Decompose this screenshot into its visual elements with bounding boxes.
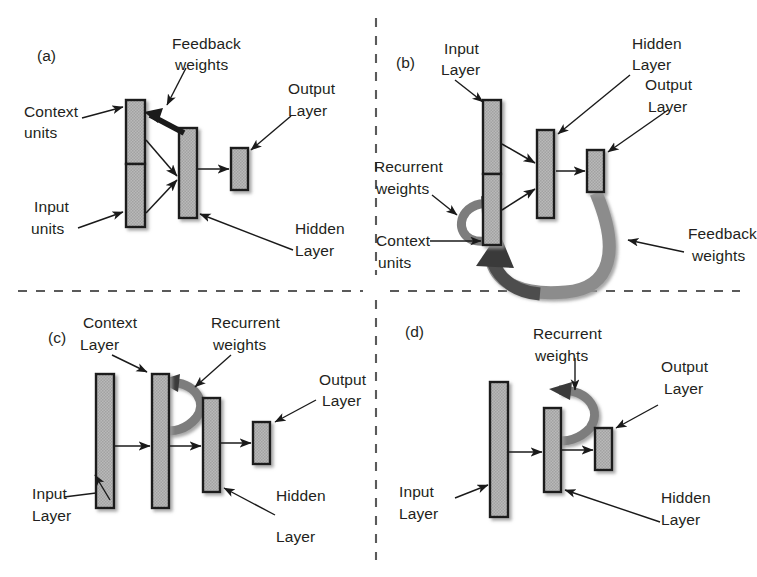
label-output-layer-a-line1: Output xyxy=(288,81,335,97)
label-hidden-layer-c-line1: Hidden xyxy=(276,488,326,504)
panel-label-a: (a) xyxy=(37,48,56,64)
label-recurrent-weights-d-line2: weights xyxy=(535,348,588,364)
leader-context-layer-c xyxy=(112,355,147,372)
label-feedback-weights-a-line1: Feedback xyxy=(172,36,241,52)
node-context-units-b xyxy=(483,174,501,245)
label-context-units-b-line1: Context xyxy=(376,233,430,249)
panel-label-b: (b) xyxy=(396,55,415,71)
panel-b-graphics xyxy=(430,75,684,294)
label-output-layer-b-line1: Output xyxy=(645,77,692,93)
label-recurrent-weights-d-line1: Recurrent xyxy=(533,326,602,342)
label-recurrent-weights-b-line2: weights xyxy=(376,181,429,197)
leader-input-units-a xyxy=(78,212,123,228)
node-hidden-layer-d xyxy=(544,408,561,492)
leader-output-layer-c xyxy=(275,400,316,422)
node-input-layer-d xyxy=(490,382,508,517)
label-output-layer-d-line1: Output xyxy=(661,359,708,375)
label-context-layer-c-line2: Layer xyxy=(80,337,119,353)
panel-label-d: (d) xyxy=(405,324,424,340)
label-input-units-a-line1: Input xyxy=(34,199,69,215)
leader-context-units-a xyxy=(82,107,123,118)
label-hidden-layer-b-line2: Layer xyxy=(632,57,671,73)
label-input-layer-d-line1: Input xyxy=(399,484,434,500)
leader-hidden-layer-b xyxy=(558,75,630,134)
label-output-layer-a-line2: Layer xyxy=(288,103,327,119)
leader-recurrent-weights-c xyxy=(195,355,231,387)
leader-feedback-weights-b xyxy=(628,240,684,252)
leader-output-layer-a xyxy=(251,116,291,150)
leader-hidden-layer-d xyxy=(565,490,660,522)
edge-context-to-hidden-b xyxy=(502,189,535,210)
leader-feedback-weights-a xyxy=(167,68,186,105)
label-input-units-a-line2: units xyxy=(31,221,64,237)
ribbon-recurrent-weights-c xyxy=(166,382,200,431)
node-context-layer-c xyxy=(152,374,169,508)
node-input-layer-b xyxy=(483,100,501,174)
label-input-layer-c-line1: Input xyxy=(32,486,67,502)
node-context-units-a xyxy=(126,100,145,164)
label-output-layer-c-line2: Layer xyxy=(322,393,361,409)
leader-input-layer-d xyxy=(455,485,488,498)
arrowhead-recurrent-weights-d xyxy=(549,382,572,400)
ribbon-recurrent-weights-d xyxy=(559,390,594,441)
node-output-layer-a xyxy=(231,148,248,190)
label-feedback-weights-a-line2: weights xyxy=(175,57,228,73)
node-output-layer-d xyxy=(595,428,612,470)
label-context-units-a-line2: units xyxy=(24,125,57,141)
label-hidden-layer-a-line1: Hidden xyxy=(295,221,345,237)
label-hidden-layer-b-line1: Hidden xyxy=(632,36,682,52)
edge-context-to-hidden-a xyxy=(146,140,177,176)
label-context-units-b-line2: units xyxy=(378,255,411,271)
label-recurrent-weights-c-line2: weights xyxy=(213,337,266,353)
label-feedback-weights-b-line2: weights xyxy=(692,248,745,264)
label-input-layer-b-line1: Input xyxy=(444,41,479,57)
leader-hidden-layer-a xyxy=(200,214,293,250)
panel-label-c: (c) xyxy=(48,330,66,346)
leader-recurrent-weights-b xyxy=(432,195,457,215)
label-recurrent-weights-b-line1: Recurrent xyxy=(374,159,443,175)
edge-input-to-hidden-a xyxy=(146,180,177,213)
label-hidden-layer-d-line1: Hidden xyxy=(661,490,711,506)
edge-input-to-hidden-b xyxy=(502,144,535,163)
label-recurrent-weights-c-line1: Recurrent xyxy=(211,315,280,331)
label-hidden-layer-d-line2: Layer xyxy=(661,512,700,528)
label-context-units-a-line1: Context xyxy=(24,104,78,120)
panel-d-graphics xyxy=(455,358,660,522)
label-input-layer-d-line2: Layer xyxy=(399,506,438,522)
label-hidden-layer-a-line2: Layer xyxy=(295,243,334,259)
node-hidden-layer-b xyxy=(537,130,554,218)
leader-output-layer-b xyxy=(608,110,668,152)
label-output-layer-d-line2: Layer xyxy=(664,381,703,397)
leader-output-layer-d xyxy=(616,405,658,428)
node-input-layer-c xyxy=(96,374,114,508)
node-input-units-a xyxy=(126,164,145,227)
panel-a-graphics xyxy=(78,68,293,250)
node-output-layer-c xyxy=(253,422,270,464)
node-hidden-layer-c xyxy=(203,398,220,492)
label-output-layer-b-line2: Layer xyxy=(648,99,687,115)
label-input-layer-c-line2: Layer xyxy=(32,508,71,524)
node-hidden-layer-a xyxy=(179,128,197,218)
leader-input-layer-b xyxy=(455,80,483,102)
label-output-layer-c-line1: Output xyxy=(319,372,366,388)
label-input-layer-b-line2: Layer xyxy=(441,62,480,78)
label-context-layer-c-line1: Context xyxy=(83,315,137,331)
label-hidden-layer-c-line2: Layer xyxy=(276,529,315,545)
node-output-layer-b xyxy=(587,150,604,192)
label-feedback-weights-b-line1: Feedback xyxy=(688,226,757,242)
leader-input-layer-stub-c xyxy=(64,493,96,497)
leader-hidden-layer-c xyxy=(224,488,275,515)
